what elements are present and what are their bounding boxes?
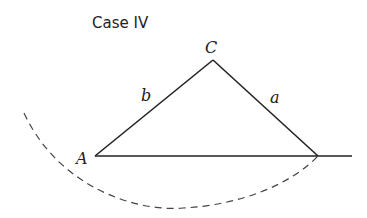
side-b-line: [95, 60, 213, 156]
side-a-line: [213, 60, 318, 156]
diagram-title: Case IV: [92, 14, 149, 32]
vertex-a-label: A: [74, 149, 88, 168]
side-a-label: a: [270, 88, 280, 107]
side-b-label: b: [141, 86, 151, 105]
vertex-c-label: C: [205, 38, 217, 57]
dashed-arc: [24, 113, 318, 208]
triangle-diagram: Case IV C A b a: [0, 0, 367, 218]
